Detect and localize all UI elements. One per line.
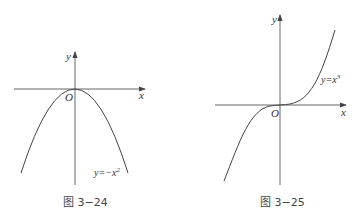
figure-3-24: y x O y=−x2 图 3−24 (14, 50, 145, 209)
figure-caption: 图 3−25 (260, 196, 305, 209)
curve-label: y=−x2 (93, 166, 120, 178)
origin-label: O (271, 107, 279, 119)
x-axis-label: x (340, 106, 346, 118)
figures-canvas: y x O y=−x2 图 3−24 y x O y=x3 图 3−25 (0, 0, 356, 221)
parabola-curve (21, 89, 128, 173)
curve-label: y=x3 (320, 73, 341, 85)
x-axis-label: x (138, 89, 144, 101)
figure-3-25: y x O y=x3 图 3−25 (215, 13, 346, 209)
origin-label: O (65, 91, 73, 103)
y-axis-label: y (65, 50, 71, 62)
y-axis-label: y (271, 13, 277, 25)
cubic-curve (224, 30, 335, 181)
figure-caption: 图 3−24 (63, 196, 108, 209)
